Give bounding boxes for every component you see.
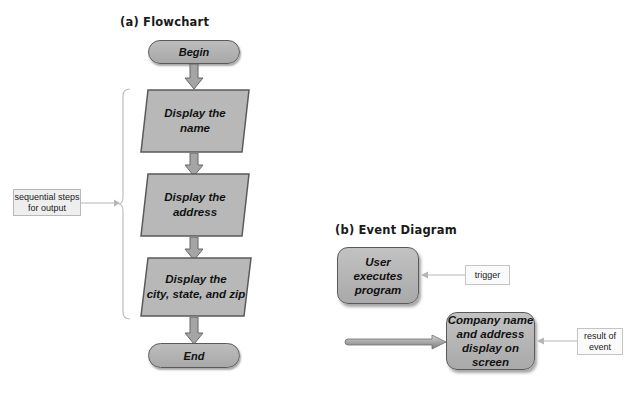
result-of-event-label: result ofevent [577, 328, 623, 355]
trigger-label-text: trigger [475, 270, 501, 281]
step-display-name: Display thename [140, 89, 250, 153]
step2-line2: address [173, 206, 217, 218]
flowchart-title: (a) Flowchart [120, 15, 209, 29]
trigger-label: trigger [465, 265, 510, 285]
down-arrow-icon [184, 317, 204, 345]
sequential-steps-callout: sequential stepsfor output [13, 189, 81, 216]
result-box-line2: and address [457, 328, 525, 340]
begin-label: Begin [179, 46, 210, 58]
callout-connector-arrow [81, 198, 121, 208]
step1-line2: name [180, 122, 210, 134]
end-label: End [184, 350, 205, 362]
trigger-connector-arrow [420, 270, 466, 280]
step-display-address: Display theaddress [140, 173, 250, 237]
end-terminator: End [148, 343, 240, 368]
step3-line1: Display the [165, 273, 226, 285]
callout-line1: sequential steps [14, 192, 79, 202]
result-label-line1: result of [584, 331, 616, 341]
result-box-line1: Company name [448, 314, 534, 326]
event-diagram-title: (b) Event Diagram [335, 223, 457, 237]
right-arrow-icon [344, 334, 448, 350]
step2-line1: Display the [164, 191, 225, 203]
trigger-event-box: Userexecutesprogram [337, 247, 419, 304]
result-box-line4: screen [472, 356, 509, 368]
trigger-box-line3: program [355, 284, 402, 296]
trigger-box-line1: User [365, 256, 391, 268]
down-arrow-icon [184, 64, 204, 90]
result-event-box: Company nameand addressdisplay onscreen [446, 312, 535, 370]
step3-line2: city, state, and zip [147, 288, 246, 300]
trigger-box-line2: executes [353, 270, 402, 282]
result-connector-arrow [536, 336, 578, 346]
result-box-line3: display on [462, 342, 519, 354]
begin-terminator: Begin [148, 40, 240, 64]
callout-line2: for output [28, 203, 66, 213]
step-display-city-state-zip: Display thecity, state, and zip [140, 257, 252, 317]
result-label-line2: event [589, 342, 611, 352]
step1-line1: Display the [164, 107, 225, 119]
